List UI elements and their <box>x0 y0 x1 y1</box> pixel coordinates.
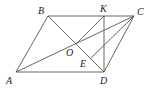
segment-cd <box>104 16 134 72</box>
segment-ac <box>16 16 134 72</box>
point-label-k: K <box>99 3 108 14</box>
point-label-o: O <box>66 47 73 58</box>
geometry-diagram: ABCDKOE <box>0 0 150 89</box>
point-label-b: B <box>38 5 44 16</box>
segments-group <box>16 16 134 72</box>
point-label-d: D <box>99 75 108 86</box>
segment-ab <box>16 16 48 72</box>
segment-ko <box>76 16 104 44</box>
segment-ce <box>90 16 134 59</box>
point-label-c: C <box>137 6 144 17</box>
point-label-e: E <box>79 58 86 69</box>
point-label-a: A <box>5 75 13 86</box>
